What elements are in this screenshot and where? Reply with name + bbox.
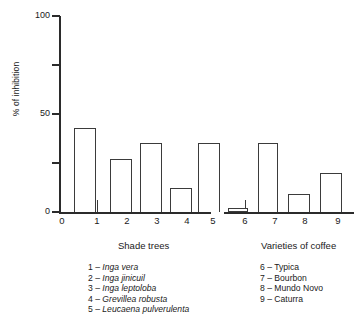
y-tick-label: 0 [26,206,50,216]
legend-item-label: Mundo Novo [274,283,323,293]
bar-3 [140,143,162,212]
y-axis-label: % of inhibition [11,39,21,139]
x-tick-label: 3 [148,215,166,226]
y-tick [52,64,60,65]
legend-item-number: 2 – [88,273,102,283]
legend-varieties-of-coffee-item: 8 – Mundo Novo [260,283,323,294]
legend-item-label: Typica [274,262,299,272]
legend-item-label: Grevillea robusta [102,294,167,304]
legend-item-number: 1 – [88,262,102,272]
legend-item-number: 7 – [260,273,274,283]
x-tick-label: 9 [329,215,347,226]
bar-2 [110,159,132,212]
legend-shade-trees-item: 3 – Inga leptoloba [88,283,189,294]
x-tick-label: 5 [204,215,222,226]
legend-shade-trees-item: 1 – Inga vera [88,262,189,273]
legend-varieties-of-coffee-item: 9 – Caturra [260,294,323,305]
group-caption-varieties-of-coffee: Varieties of coffee [261,240,336,251]
y-tick [52,113,60,114]
bar-9 [320,173,342,212]
legend-item-number: 9 – [260,294,274,304]
y-tick [52,15,60,16]
bar-chart-figure: % of inhibition 100500 0123456789 Shade … [0,0,364,327]
bar-4 [170,188,192,212]
x-axis-line-right [224,212,354,214]
x-tick-label: 8 [296,215,314,226]
y-tick-label: 100 [26,10,50,20]
legend-item-label: Leucaena pulverulenta [102,304,189,314]
legend-item-number: 8 – [260,283,274,293]
x-tick-label: 6 [236,215,254,226]
legend-item-label: Caturra [274,294,303,304]
x-tick-label: 2 [118,215,136,226]
legend-shade-trees-item: 5 – Leucaena pulverulenta [88,304,189,315]
legend-item-number: 6 – [260,262,274,272]
y-tick-label: 50 [26,108,50,118]
legend-item-label: Inga jinicuil [102,273,145,283]
x-tick-label: 7 [266,215,284,226]
group-caption-shade-trees: Shade trees [118,240,169,251]
legend-shade-trees-item: 4 – Grevillea robusta [88,294,189,305]
legend-shade-trees-item: 2 – Inga jinicuil [88,273,189,284]
legend-item-number: 4 – [88,294,102,304]
legend-varieties-of-coffee-item: 7 – Bourbon [260,273,323,284]
x-tick-label: 1 [88,215,106,226]
x-tick-label: 4 [178,215,196,226]
legend-varieties-of-coffee-item: 6 – Typica [260,262,323,273]
x-tick [97,200,98,212]
bar-8 [288,194,310,212]
bar-7 [258,143,278,212]
x-tick-label: 0 [53,215,71,226]
bar-1 [74,128,96,212]
legend-item-number: 3 – [88,283,102,293]
bar-5 [198,143,220,212]
legend-item-label: Inga vera [102,262,138,272]
legend-item-label: Inga leptoloba [102,283,156,293]
bar-6 [228,208,248,212]
legend-item-label: Bourbon [274,273,307,283]
y-tick [52,162,60,163]
x-axis-line-left [59,212,211,214]
legend-shade-trees: 1 – Inga vera2 – Inga jinicuil3 – Inga l… [88,262,189,315]
legend-item-number: 5 – [88,304,102,314]
legend-varieties-of-coffee: 6 – Typica7 – Bourbon8 – Mundo Novo9 – C… [260,262,323,304]
